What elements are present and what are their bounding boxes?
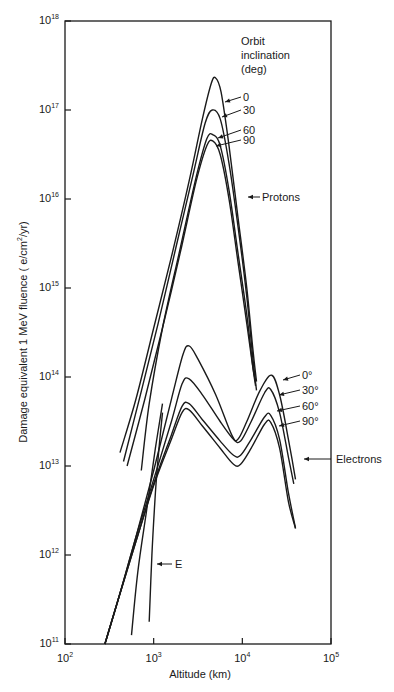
y-tick-label: 1017 xyxy=(19,102,59,115)
electron-label-0: 0° xyxy=(302,369,313,382)
y-axis-title: Damage equivalent 1 MeV fluence ( e/cm2/… xyxy=(16,221,29,443)
legend-title: Orbit inclination (deg) xyxy=(241,34,290,76)
data-curves xyxy=(105,77,296,644)
series-line xyxy=(105,378,294,644)
annotation-arrows xyxy=(157,97,331,566)
electron-label-30: 30° xyxy=(302,384,319,397)
x-tick-label: 102 xyxy=(45,651,85,664)
proton-label-90: 90 xyxy=(243,134,255,147)
proton-label-0: 0 xyxy=(243,91,249,104)
electrons-label: Electrons xyxy=(336,453,382,466)
y-tick-label: 1018 xyxy=(19,13,59,26)
y-tick-label: 1013 xyxy=(19,458,59,471)
e-label: E xyxy=(175,558,182,571)
legend-title-line: Orbit xyxy=(241,34,290,48)
electron-label-60: 60° xyxy=(302,400,319,413)
series-line xyxy=(124,110,257,462)
x-tick-label: 105 xyxy=(311,651,351,664)
x-tick-label: 103 xyxy=(134,651,174,664)
series-line xyxy=(132,404,163,635)
series-line xyxy=(127,140,256,466)
plot-frame xyxy=(65,21,331,644)
x-tick-label: 104 xyxy=(222,651,262,664)
y-tick-label: 1012 xyxy=(19,547,59,560)
y-tick-label: 1011 xyxy=(19,636,59,649)
protons-label: Protons xyxy=(262,191,300,204)
x-axis-title: Altitude (km) xyxy=(150,668,250,680)
legend-title-line: (deg) xyxy=(241,62,290,76)
chart-canvas xyxy=(0,0,394,692)
legend-title-line: inclination xyxy=(241,48,290,62)
proton-label-30: 30 xyxy=(243,104,255,117)
electron-label-90: 90° xyxy=(302,415,319,428)
y-tick-label: 1016 xyxy=(19,191,59,204)
axis-ticks xyxy=(65,21,331,644)
